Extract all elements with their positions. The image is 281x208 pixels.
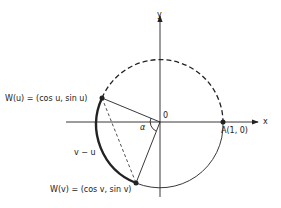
y-axis-label: y (157, 10, 162, 19)
arc-label: v − u (74, 148, 96, 157)
origin-label: 0 (163, 111, 168, 120)
angle-alpha-label: α (140, 123, 146, 132)
chord (102, 98, 136, 183)
arc-v-minus-u (96, 98, 136, 183)
point-wv-label: W(v) = (cos v, sin v) (50, 185, 131, 194)
point-a (221, 120, 226, 125)
lower-arc (136, 122, 223, 188)
point-wu (100, 96, 105, 101)
x-axis-label: x (263, 117, 268, 126)
point-wv (134, 181, 139, 186)
unit-circle-diagram: y x 0 A(1, 0) W(u) = (cos u, sin u) W(v)… (0, 0, 281, 208)
point-a-label: A(1, 0) (221, 126, 248, 135)
point-wu-label: W(u) = (cos u, sin u) (5, 94, 88, 103)
